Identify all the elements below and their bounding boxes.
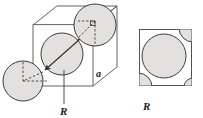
figure-canvas: R a R xyxy=(0,0,203,118)
radius-label-face: R xyxy=(142,100,150,112)
corner-arc-top-right xyxy=(179,14,203,42)
radius-label-cell: R xyxy=(59,105,67,117)
corner-arc-bottom-left xyxy=(124,73,152,101)
center-sphere xyxy=(41,33,83,75)
edge-length-label: a xyxy=(96,68,101,79)
face-center-sphere xyxy=(142,34,186,78)
panel-face-view: R xyxy=(124,14,203,112)
crystal-structure-figure: R a R xyxy=(0,0,203,118)
corner-arc-bottom-right xyxy=(184,78,202,96)
panel-unit-cell: R a xyxy=(3,4,117,117)
